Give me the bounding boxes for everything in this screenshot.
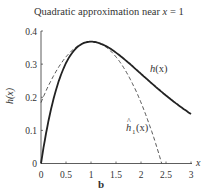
- y-tick-label: 0.2: [25, 93, 37, 103]
- x-tick-label: 2: [139, 170, 144, 180]
- x-tick-label: 0.5: [60, 170, 72, 180]
- x-tick-label: 1.5: [110, 170, 122, 180]
- series-hhat-dashed: [41, 42, 162, 164]
- y-axis-label: h(x): [4, 87, 16, 104]
- x-tick-label: 3: [189, 170, 194, 180]
- y-tick-label: 0.3: [25, 60, 37, 70]
- svg-text:^: ^: [127, 117, 131, 126]
- panel-label: b: [98, 178, 104, 190]
- label-h: h(x): [150, 63, 168, 75]
- label-hhat: h ^ 1 (x): [126, 117, 149, 136]
- y-tick-label: 0.1: [25, 126, 37, 136]
- chart: Quadratic approximation near x = 1 00.51…: [0, 0, 204, 195]
- x-axis-label: x: [195, 157, 201, 168]
- x-tick-label: 1: [89, 170, 94, 180]
- x-tick-label: 2.5: [160, 170, 172, 180]
- tick-labels: 00.511.522.5300.10.20.30.4: [25, 27, 194, 181]
- y-tick-label: 0.4: [25, 27, 37, 37]
- y-tick-label: 0: [32, 159, 37, 169]
- x-tick-label: 0: [39, 170, 44, 180]
- chart-title: Quadratic approximation near x = 1: [34, 6, 184, 17]
- svg-text:(x): (x): [136, 122, 149, 134]
